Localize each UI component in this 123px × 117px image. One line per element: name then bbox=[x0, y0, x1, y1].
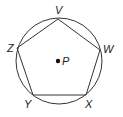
vertex-label-y: Y bbox=[24, 98, 32, 110]
vertex-label-x: X bbox=[84, 98, 93, 110]
center-point-dot bbox=[56, 59, 60, 63]
vertex-label-z: Z bbox=[6, 42, 15, 54]
center-label-p: P bbox=[62, 55, 70, 67]
vertex-label-w: W bbox=[103, 43, 115, 55]
inscribed-pentagon-diagram: V W X Y Z P bbox=[0, 0, 123, 117]
vertex-label-v: V bbox=[55, 4, 64, 16]
